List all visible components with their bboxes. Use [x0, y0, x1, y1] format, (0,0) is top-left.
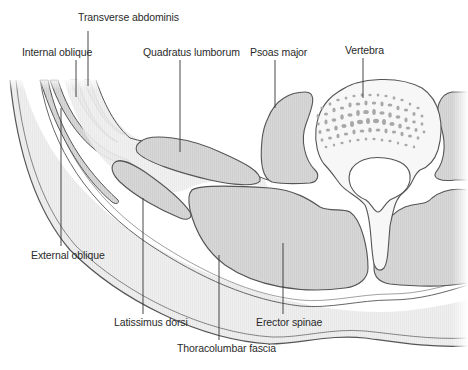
label-erector-spinae: Erector spinae [256, 316, 322, 328]
label-psoas-major: Psoas major [250, 46, 307, 58]
right-fade [452, 80, 468, 360]
erector-spinae-left [189, 186, 368, 290]
psoas-major-muscle [261, 92, 317, 184]
label-latissimus-dorsi: Latissimus dorsi [114, 316, 188, 328]
label-thoracolumbar-fascia: Thoracolumbar fascia [177, 342, 276, 354]
label-quadratus-lumborum: Quadratus lumborum [143, 46, 240, 58]
label-transverse-abdominis: Transverse abdominis [78, 11, 179, 23]
anatomy-diagram: Transverse abdominis Internal oblique Qu… [0, 0, 468, 370]
label-vertebra: Vertebra [345, 44, 384, 56]
label-internal-oblique: Internal oblique [22, 46, 92, 58]
top-fade [0, 76, 140, 90]
label-external-oblique: External oblique [31, 249, 105, 261]
